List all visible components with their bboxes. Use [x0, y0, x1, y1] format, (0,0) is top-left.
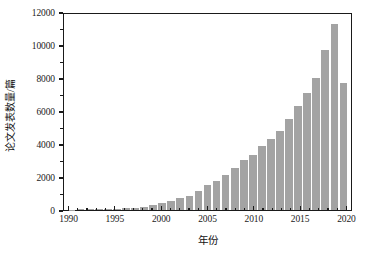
tick-mark: [244, 208, 245, 211]
bar: [267, 139, 275, 210]
tick-mark: [161, 206, 162, 211]
bar: [213, 181, 221, 210]
bar: [285, 119, 293, 210]
tick-mark: [105, 208, 106, 211]
tick-mark: [337, 208, 338, 211]
bar: [158, 203, 166, 210]
bar: [294, 106, 302, 210]
bar: [167, 201, 175, 210]
tick-mark: [318, 208, 319, 211]
y-axis-tick-label: 4000: [36, 140, 55, 150]
tick-mark: [77, 208, 78, 211]
tick-mark: [96, 208, 97, 211]
bar-series: [64, 14, 351, 210]
tick-mark: [142, 208, 143, 211]
x-axis-tick-label: 2000: [152, 214, 171, 224]
tick-mark: [346, 206, 347, 211]
bar: [249, 155, 257, 210]
x-axis-tick-label: 1995: [106, 214, 125, 224]
tick-mark: [309, 208, 310, 211]
x-axis-title: 年份: [63, 232, 353, 247]
tick-mark: [225, 208, 226, 211]
tick-mark: [198, 208, 199, 211]
bar: [312, 78, 320, 210]
x-axis-tick-label: 2020: [337, 214, 356, 224]
bar: [195, 191, 203, 210]
tick-mark: [188, 208, 189, 211]
y-axis: 020004000600080001000012000: [0, 0, 63, 212]
y-axis-tick-label: 6000: [36, 107, 55, 117]
x-axis-tick-label: 1990: [59, 214, 78, 224]
bar: [276, 131, 284, 210]
bar: [258, 146, 266, 210]
bar: [231, 168, 239, 210]
y-axis-tick-label: 10000: [32, 41, 55, 51]
bar: [240, 160, 248, 210]
tick-mark: [281, 208, 282, 211]
bar: [340, 83, 348, 210]
x-axis-tick-label: 2005: [198, 214, 217, 224]
tick-mark: [151, 208, 152, 211]
tick-mark: [327, 208, 328, 211]
x-axis-tick-label: 2015: [291, 214, 310, 224]
y-axis-tick-label: 12000: [32, 8, 55, 18]
tick-mark: [290, 208, 291, 211]
tick-mark: [114, 206, 115, 211]
bar: [331, 24, 339, 210]
tick-mark: [235, 208, 236, 211]
bar: [222, 175, 230, 210]
plot-area: [63, 13, 352, 211]
bar: [303, 93, 311, 210]
tick-mark: [262, 208, 263, 211]
tick-mark: [68, 206, 69, 211]
tick-mark: [272, 208, 273, 211]
tick-mark: [253, 206, 254, 211]
y-axis-tick-label: 8000: [36, 74, 55, 84]
tick-mark: [124, 208, 125, 211]
tick-mark: [216, 208, 217, 211]
publication-bar-chart: 论文发表数量/篇 020004000600080001000012000 199…: [0, 0, 365, 257]
tick-mark: [170, 208, 171, 211]
bar: [321, 50, 329, 210]
x-axis-tick-label: 2010: [244, 214, 263, 224]
tick-mark: [207, 206, 208, 211]
y-axis-tick-label: 0: [50, 206, 55, 216]
tick-mark: [86, 208, 87, 211]
tick-mark: [133, 208, 134, 211]
tick-mark: [179, 208, 180, 211]
tick-mark: [300, 206, 301, 211]
y-axis-tick-label: 2000: [36, 173, 55, 183]
